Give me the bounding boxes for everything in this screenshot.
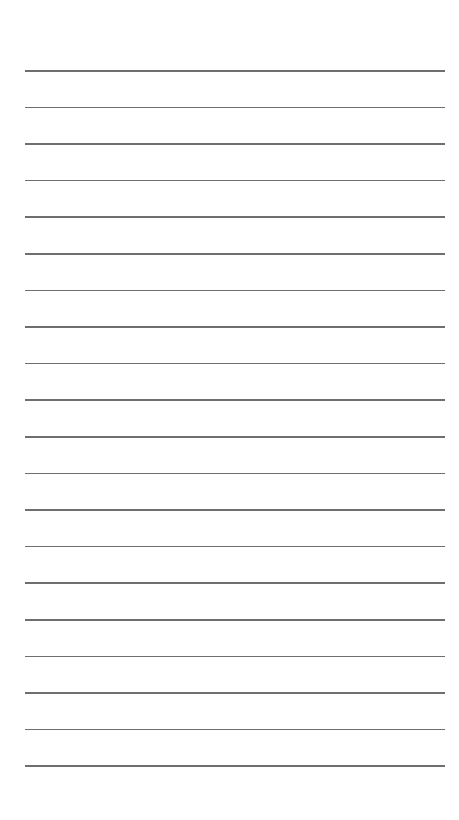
ruled-line xyxy=(25,107,445,109)
ruled-line xyxy=(25,290,445,292)
ruled-line xyxy=(25,70,445,72)
ruled-line xyxy=(25,619,445,621)
ruled-line xyxy=(25,436,445,438)
ruled-line xyxy=(25,656,445,658)
ruled-line xyxy=(25,399,445,401)
ruled-line xyxy=(25,765,445,767)
ruled-line xyxy=(25,546,445,548)
ruled-line xyxy=(25,143,445,145)
ruled-line xyxy=(25,509,445,511)
ruled-line xyxy=(25,582,445,584)
ruled-line xyxy=(25,216,445,218)
ruled-line xyxy=(25,363,445,365)
ruled-line xyxy=(25,253,445,255)
ruled-line xyxy=(25,729,445,731)
ruled-line xyxy=(25,473,445,475)
ruled-line xyxy=(25,326,445,328)
ruled-line xyxy=(25,180,445,182)
ruled-line xyxy=(25,692,445,694)
lined-page xyxy=(0,0,459,820)
